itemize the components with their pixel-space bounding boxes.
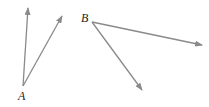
ray-arrow [23,8,28,86]
rays-drawing [0,0,209,107]
ray-arrow [23,16,62,86]
ray-arrow [92,22,142,90]
vertex-label-a: A [18,90,25,102]
ray-arrow [92,22,202,45]
vertex-label-b: B [81,12,88,24]
angle-diagram: A B [0,0,209,107]
